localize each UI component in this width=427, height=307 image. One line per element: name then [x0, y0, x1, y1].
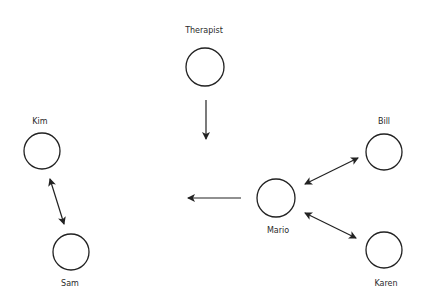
- double-arrow-kim-sam: [50, 179, 64, 224]
- node-label-mario: Mario: [267, 226, 289, 235]
- edges-layer: [50, 100, 358, 238]
- node-label-therapist: Therapist: [185, 26, 223, 35]
- node-label-sam: Sam: [61, 279, 79, 288]
- nodes-layer: [24, 48, 402, 270]
- family-therapy-diagram: Therapist Kim Sam Mario Bill Karen: [0, 0, 427, 307]
- node-label-kim: Kim: [32, 117, 47, 126]
- diagram-graphics: [0, 0, 427, 307]
- node-circle-therapist: [186, 48, 224, 86]
- double-arrow-mario-karen: [305, 213, 356, 238]
- node-label-bill: Bill: [378, 117, 390, 126]
- node-circle-kim: [24, 133, 60, 169]
- node-label-karen: Karen: [374, 279, 397, 288]
- node-circle-mario: [257, 179, 295, 217]
- node-circle-sam: [53, 234, 89, 270]
- node-circle-bill: [366, 134, 402, 170]
- node-circle-karen: [366, 232, 402, 268]
- double-arrow-mario-bill: [305, 158, 358, 184]
